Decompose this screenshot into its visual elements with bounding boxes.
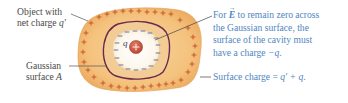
label-surface-charge: Surface charge = q′ + q. [213, 71, 306, 82]
var-q-prime: q′ [59, 17, 66, 28]
vector-e: E [229, 9, 235, 22]
label-cavity-line1: For E to remain zero across [213, 9, 319, 22]
surface-charge-expression: q′ + q [280, 71, 303, 82]
label-cavity-line2: the Gaussian surface, the [213, 22, 319, 35]
label-cavity-line4: have a charge −q. [213, 47, 319, 60]
label-object-line2: net charge q′ [17, 17, 66, 28]
label-object-line1: Object with [17, 6, 66, 17]
var-a: A [56, 71, 62, 82]
label-gaussian-line2: surface A [26, 71, 62, 82]
cavity-line4-prefix: have a charge [213, 47, 268, 58]
surface-charge-suffix: . [303, 71, 305, 82]
cavity-line4-suffix: . [279, 47, 281, 58]
surface-charge-prefix: Surface charge = [213, 71, 280, 82]
cavity-line1-prefix: For [213, 9, 229, 20]
label-object-net-charge: Object with net charge q′ [17, 6, 66, 28]
conductor-cavity-diagram: Object with net charge q′ Gaussian surfa… [0, 0, 348, 103]
point-charge-symbol: q [123, 38, 128, 49]
label-cavity-note: For E to remain zero across the Gaussian… [213, 9, 319, 59]
var-minus-q: −q [268, 47, 279, 58]
label-gaussian-line2-text: surface [26, 71, 56, 82]
label-gaussian-line1: Gaussian [26, 60, 62, 71]
leader-object [71, 14, 88, 21]
label-cavity-line3: surface of the cavity must [213, 34, 319, 47]
label-gaussian-surface: Gaussian surface A [26, 60, 62, 82]
cavity-line1-suffix: to remain zero across [235, 9, 319, 20]
label-object-line2-text: net charge [17, 17, 59, 28]
